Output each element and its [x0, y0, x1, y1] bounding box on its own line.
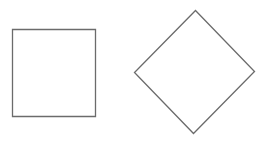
diamond-shape: [135, 11, 255, 134]
square-shape: [13, 30, 96, 117]
shapes-svg: [0, 0, 266, 147]
diagram-canvas: [0, 0, 266, 147]
